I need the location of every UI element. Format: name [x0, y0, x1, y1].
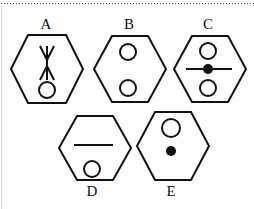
open-circle-icon: [200, 80, 216, 96]
hexagon-e-svg: [133, 107, 213, 185]
hexagon-b-svg: [90, 30, 170, 108]
option-hexagon-b[interactable]: [90, 30, 170, 108]
hexagon-outline-b: [94, 36, 166, 102]
hexagon-d-svg: [55, 112, 135, 184]
open-circle-icon: [120, 80, 136, 96]
hexagon-c-svg: [170, 30, 250, 108]
option-label-e: E: [159, 183, 183, 199]
open-circle-icon: [162, 119, 180, 137]
option-hexagon-a[interactable]: [8, 30, 86, 108]
hexagon-a-svg: [8, 30, 86, 108]
filled-dot-icon: [203, 64, 213, 74]
hexagon-outline-d: [59, 116, 131, 180]
option-label-d: D: [80, 183, 104, 199]
option-hexagon-c[interactable]: [170, 30, 250, 108]
open-circle-icon: [84, 161, 100, 177]
open-circle-icon: [200, 43, 216, 59]
dotted-rule: [0, 2, 254, 5]
option-hexagon-d[interactable]: [55, 112, 135, 184]
hexagon-figure: A B C: [0, 0, 254, 209]
filled-dot-icon: [166, 146, 176, 156]
open-circle-icon: [39, 82, 55, 98]
hexagon-outline-e: [137, 112, 209, 180]
page-edge-line: [1, 6, 2, 209]
option-hexagon-e[interactable]: [133, 107, 213, 185]
open-circle-icon: [120, 44, 136, 60]
